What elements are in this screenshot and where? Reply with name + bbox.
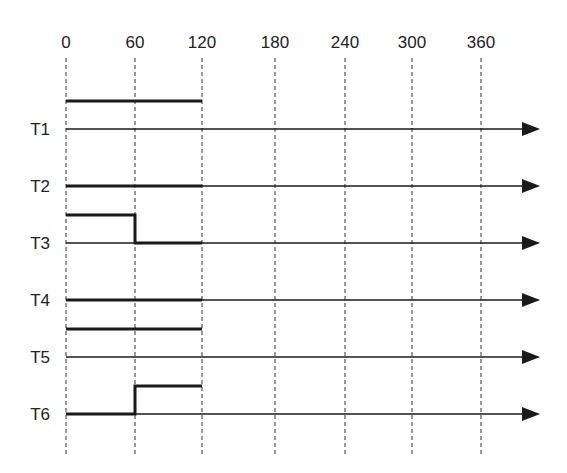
timing-diagram: 060120180240300360 T1T2T3T4T5T6 (0, 0, 567, 473)
signal-row-t3: T3 (30, 215, 538, 253)
row-label: T2 (30, 177, 50, 196)
time-axis: 060120180240300360 (61, 33, 495, 52)
row-label: T5 (30, 348, 50, 367)
tick-label: 60 (126, 33, 145, 52)
tick-label: 120 (188, 33, 216, 52)
row-label: T4 (30, 291, 50, 310)
row-label: T3 (30, 234, 50, 253)
tick-label: 180 (261, 33, 289, 52)
row-label: T6 (30, 405, 50, 424)
tick-label: 0 (61, 33, 70, 52)
signal-row-t1: T1 (30, 101, 538, 139)
signal-row-t6: T6 (30, 386, 538, 424)
signal-waveform (66, 386, 202, 414)
tick-label: 300 (398, 33, 426, 52)
tick-label: 240 (331, 33, 359, 52)
signal-row-t5: T5 (30, 329, 538, 367)
signal-row-t4: T4 (30, 291, 538, 310)
signal-row-t2: T2 (30, 177, 538, 196)
grid-lines (66, 58, 481, 456)
row-label: T1 (30, 120, 50, 139)
tick-label: 360 (467, 33, 495, 52)
signal-waveform (66, 215, 202, 243)
signal-rows: T1T2T3T4T5T6 (30, 101, 538, 424)
